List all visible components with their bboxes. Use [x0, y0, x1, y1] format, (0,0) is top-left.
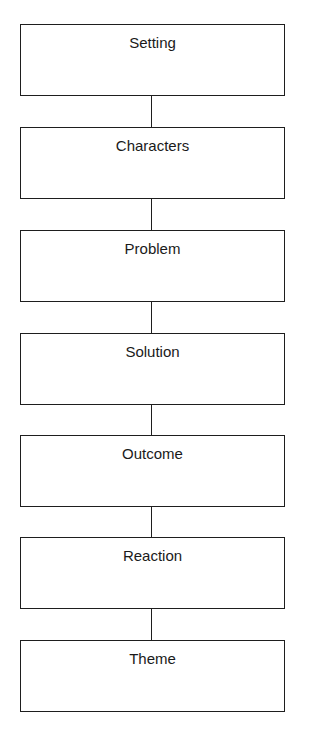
- node-label: Reaction: [21, 547, 284, 564]
- node-label: Problem: [21, 240, 284, 257]
- connector-line: [151, 302, 152, 333]
- node-reaction: Reaction: [20, 537, 285, 609]
- node-label: Solution: [21, 343, 284, 360]
- connector-line: [151, 199, 152, 230]
- connector-line: [151, 405, 152, 435]
- node-label: Outcome: [21, 445, 284, 462]
- node-characters: Characters: [20, 127, 285, 199]
- node-label: Theme: [21, 650, 284, 667]
- node-label: Setting: [21, 34, 284, 51]
- node-setting: Setting: [20, 24, 285, 96]
- node-problem: Problem: [20, 230, 285, 302]
- node-theme: Theme: [20, 640, 285, 712]
- node-solution: Solution: [20, 333, 285, 405]
- node-label: Characters: [21, 137, 284, 154]
- node-outcome: Outcome: [20, 435, 285, 507]
- connector-line: [151, 609, 152, 640]
- connector-line: [151, 96, 152, 127]
- connector-line: [151, 507, 152, 537]
